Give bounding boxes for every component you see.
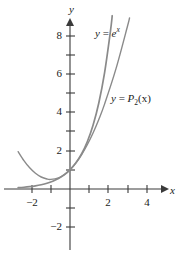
poly-label-y: y <box>111 92 116 104</box>
exponential-curve <box>18 16 112 188</box>
poly-label-equals: = <box>119 92 125 104</box>
exponential-taylor-polynomial-figure: y x −2248642−2 y = ex y = P2(x) <box>0 0 177 261</box>
y-axis-label: y <box>69 4 74 15</box>
x-axis-label: x <box>170 185 175 196</box>
x-tick-label: 4 <box>138 197 156 208</box>
exp-label-exponent: x <box>117 25 120 34</box>
exponential-curve-label: y = ex <box>95 28 120 39</box>
y-tick-label: 6 <box>44 68 62 79</box>
x-tick-label: −2 <box>23 197 41 208</box>
exp-label-equals: = <box>103 27 109 39</box>
y-tick-label: 2 <box>44 145 62 156</box>
y-axis <box>66 18 75 250</box>
exp-label-y: y <box>95 27 100 39</box>
y-axis-arrowhead <box>66 18 74 26</box>
plot-canvas <box>0 0 177 261</box>
y-tick-label: 4 <box>44 106 62 117</box>
polynomial-curve-label: y = P2(x) <box>111 93 151 104</box>
y-tick-label: 8 <box>44 30 62 41</box>
x-tick-label: 2 <box>99 197 117 208</box>
x-axis-arrowhead <box>161 185 169 193</box>
poly-label-argument: (x) <box>138 92 151 104</box>
y-tick-label: −2 <box>44 221 62 232</box>
